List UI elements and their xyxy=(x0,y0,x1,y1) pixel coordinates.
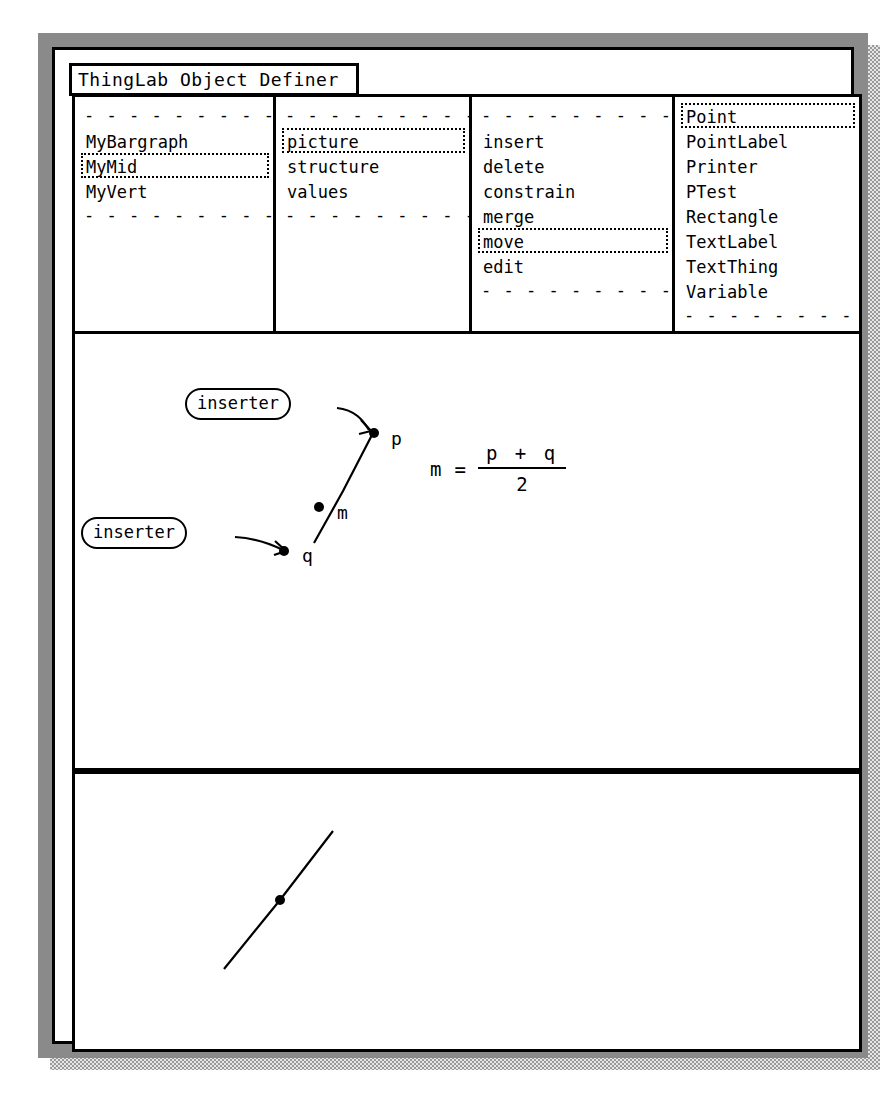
views-top-separator: - - - - - - - - - - - xyxy=(282,103,469,128)
point-label-m: m xyxy=(337,504,348,522)
objects-bottom-separator: - - - - - - - - - - - xyxy=(81,203,273,228)
equation-lhs: m xyxy=(430,458,442,480)
menu-item-rectangle[interactable]: Rectangle xyxy=(681,203,855,228)
menu-item-textthing[interactable]: TextThing xyxy=(681,253,855,278)
window-title-label: ThingLab Object Definer xyxy=(78,69,339,90)
menu-item-picture[interactable]: picture xyxy=(282,128,465,153)
views-bottom-separator: - - - - - - - - - - - xyxy=(282,203,469,228)
menu-item-ptest[interactable]: PTest xyxy=(681,178,855,203)
preview-strokes xyxy=(75,774,862,1052)
actions-bottom-separator: - - - - - - - - - - - xyxy=(478,278,672,303)
menu-item-variable[interactable]: Variable xyxy=(681,278,855,303)
point-dot-p[interactable] xyxy=(369,428,379,438)
menu-item-mymid[interactable]: MyMid xyxy=(81,153,269,178)
menu-item-delete[interactable]: delete xyxy=(478,153,668,178)
menu-pane-views: - - - - - - - - - - - picture structure … xyxy=(273,97,469,331)
preview-pane[interactable] xyxy=(72,771,862,1052)
point-dot-m[interactable] xyxy=(314,502,324,512)
equation-denominator: 2 xyxy=(516,469,527,495)
menu-item-printer[interactable]: Printer xyxy=(681,153,855,178)
objects-top-separator: - - - - - - - - - - - xyxy=(81,103,273,128)
inserter-arrow-q xyxy=(235,537,283,550)
menu-item-point[interactable]: Point xyxy=(681,103,855,128)
menu-item-structure[interactable]: structure xyxy=(282,153,465,178)
menu-pane-objects: - - - - - - - - - - - MyBargraph MyMid M… xyxy=(75,97,273,331)
equation-fraction: p + q 2 xyxy=(478,442,566,495)
menu-item-mybargraph[interactable]: MyBargraph xyxy=(81,128,269,153)
thinglab-window: ThingLab Object Definer - - - - - - - - … xyxy=(38,33,868,1058)
inserter-capsule-q[interactable]: inserter xyxy=(81,517,187,549)
menu-item-values[interactable]: values xyxy=(282,178,465,203)
menu-strip: - - - - - - - - - - - MyBargraph MyMid M… xyxy=(72,94,862,334)
menu-item-insert[interactable]: insert xyxy=(478,128,668,153)
menu-item-myvert[interactable]: MyVert xyxy=(81,178,269,203)
menu-item-textlabel[interactable]: TextLabel xyxy=(681,228,855,253)
classes-bottom-separator: - - - - - - - - - - - xyxy=(681,303,859,328)
menu-item-constrain[interactable]: constrain xyxy=(478,178,668,203)
inserter-arrow-p xyxy=(337,408,369,430)
inserter-label: inserter xyxy=(197,393,279,413)
menu-pane-actions: - - - - - - - - - - - insert delete cons… xyxy=(469,97,672,331)
menu-item-move[interactable]: move xyxy=(478,228,668,253)
equation-numerator: p + q xyxy=(478,442,566,467)
menu-pane-classes: Point PointLabel Printer PTest Rectangle… xyxy=(672,97,859,331)
inserter-capsule-p[interactable]: inserter xyxy=(185,388,291,420)
menu-item-merge[interactable]: merge xyxy=(478,203,668,228)
window-inner-area: ThingLab Object Definer - - - - - - - - … xyxy=(52,47,854,1044)
menu-item-pointlabel[interactable]: PointLabel xyxy=(681,128,855,153)
equation-operator: = xyxy=(454,458,465,480)
point-label-p: p xyxy=(391,430,402,448)
segment-p-q xyxy=(314,433,373,543)
point-label-q: q xyxy=(302,547,313,565)
actions-top-separator: - - - - - - - - - - - xyxy=(478,103,672,128)
point-dot-q[interactable] xyxy=(279,546,289,556)
preview-midpoint-dot[interactable] xyxy=(275,895,285,905)
window-title-bar[interactable]: ThingLab Object Definer xyxy=(69,63,359,96)
constraint-equation[interactable]: m = p + q 2 xyxy=(430,442,566,495)
inserter-label: inserter xyxy=(93,522,175,542)
menu-item-edit[interactable]: edit xyxy=(478,253,668,278)
picture-canvas[interactable]: inserter inserter p m q m = p + q xyxy=(72,334,862,771)
